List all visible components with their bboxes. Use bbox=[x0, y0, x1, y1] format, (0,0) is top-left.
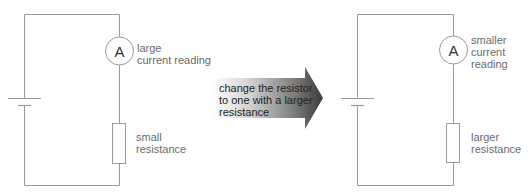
right-ammeter-label: smaller current reading bbox=[471, 34, 508, 70]
left-ammeter-label: large current reading bbox=[137, 42, 211, 66]
right-resistor-label: larger resistance bbox=[471, 131, 521, 155]
ammeter-symbol-right: A bbox=[448, 42, 458, 59]
left-resistor-label: small resistance bbox=[136, 131, 186, 155]
ammeter-symbol-left: A bbox=[114, 43, 124, 60]
resistor-icon bbox=[447, 124, 460, 163]
arrow-label: change the resistor to one with a larger… bbox=[219, 82, 313, 118]
battery-icon bbox=[341, 99, 374, 106]
right-circuit bbox=[341, 15, 468, 186]
battery-icon bbox=[8, 99, 41, 106]
resistor-icon bbox=[113, 124, 126, 164]
left-circuit bbox=[8, 15, 134, 186]
